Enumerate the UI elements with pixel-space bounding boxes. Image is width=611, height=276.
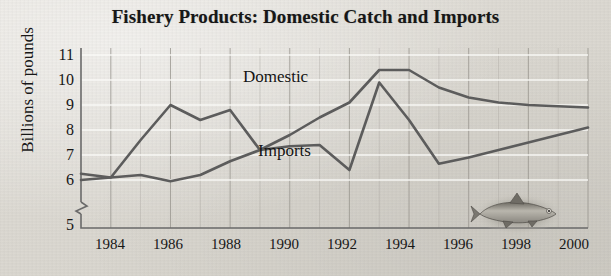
series-line-domestic <box>81 70 588 180</box>
axis-break-marker <box>76 202 87 214</box>
horizontal-gridlines <box>81 55 588 180</box>
series-label-domestic: Domestic <box>243 67 308 87</box>
series-line-imports <box>81 83 588 182</box>
data-series-lines <box>81 70 588 181</box>
chart-figure: Fishery Products: Domestic Catch and Imp… <box>0 0 611 276</box>
fish-illustration <box>470 183 566 235</box>
series-label-imports: Imports <box>258 141 311 161</box>
